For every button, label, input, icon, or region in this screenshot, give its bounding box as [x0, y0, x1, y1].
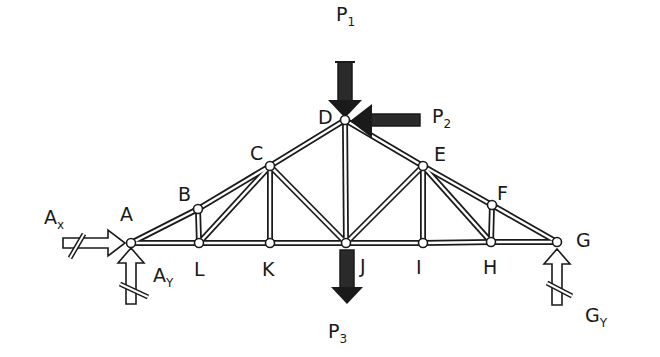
node-label-I: I: [416, 258, 422, 277]
member-inner: [131, 209, 198, 243]
joint-B: [194, 205, 203, 214]
load-label-P1: P1: [336, 5, 355, 24]
label-main: A: [44, 206, 57, 228]
reaction-arrow-ay: [118, 248, 148, 304]
label-main: C: [250, 142, 263, 164]
load-label-P2: P2: [432, 107, 451, 126]
member-inner: [346, 166, 423, 243]
reaction-arrow-ax: [63, 230, 125, 258]
label-main: P: [336, 3, 347, 25]
joint-A: [127, 239, 136, 248]
joint-J: [342, 239, 351, 248]
member-inner: [492, 205, 557, 242]
joint-H: [487, 238, 496, 247]
load-arrow-p3: [331, 250, 363, 304]
label-main: B: [178, 183, 191, 205]
member-inner: [423, 166, 492, 205]
label-subscript: Y: [600, 316, 607, 330]
label-main: A: [120, 203, 133, 225]
label-subscript: 1: [347, 15, 355, 29]
load-arrow-p2: [350, 104, 420, 138]
label-subscript: x: [57, 218, 64, 232]
node-label-K: K: [262, 260, 274, 279]
joint-F: [488, 201, 497, 210]
joint-I: [419, 239, 428, 248]
label-subscript: Y: [166, 276, 173, 290]
joint-L: [195, 239, 204, 248]
member-inner: [345, 120, 346, 243]
node-label-A: A: [120, 205, 133, 224]
label-main: K: [262, 258, 274, 280]
member-inner: [491, 205, 492, 242]
label-main: H: [483, 256, 497, 278]
reaction-label-Ay: AY: [153, 266, 173, 285]
node-label-F: F: [497, 184, 508, 203]
label-main: A: [153, 264, 166, 286]
label-main: L: [194, 258, 205, 280]
truss-diagram: [0, 0, 660, 357]
label-subscript: 2: [443, 117, 451, 131]
load-label-P3: P3: [328, 322, 347, 341]
member-inner: [270, 166, 346, 243]
node-label-H: H: [483, 258, 497, 277]
node-label-J: J: [360, 257, 366, 276]
label-main: J: [360, 255, 366, 277]
truss-members: [131, 120, 557, 243]
node-label-E: E: [434, 145, 446, 164]
label-main: I: [416, 256, 422, 278]
reaction-label-Gy: GY: [585, 306, 607, 325]
label-main: G: [576, 229, 591, 251]
label-main: F: [497, 182, 508, 204]
reaction-arrow-gy: [544, 249, 572, 305]
label-main: D: [318, 106, 333, 128]
node-label-G: G: [576, 231, 591, 250]
joint-G: [553, 238, 562, 247]
node-label-D: D: [318, 108, 333, 127]
load-arrow-p1: [328, 62, 362, 118]
joint-C: [266, 162, 275, 171]
joint-K: [266, 239, 275, 248]
label-main: P: [432, 105, 443, 127]
member-inner: [345, 120, 423, 166]
node-label-L: L: [194, 260, 205, 279]
node-label-C: C: [250, 144, 263, 163]
node-label-B: B: [178, 185, 191, 204]
label-main: E: [434, 143, 446, 165]
member-inner: [423, 242, 491, 243]
reaction-label-Ax: Ax: [44, 208, 64, 227]
member-inner: [270, 120, 345, 166]
label-main: G: [585, 304, 600, 326]
joint-D: [341, 116, 350, 125]
label-main: P: [328, 320, 339, 342]
joint-E: [419, 162, 428, 171]
label-subscript: 3: [339, 332, 347, 346]
member-inner: [423, 166, 491, 242]
